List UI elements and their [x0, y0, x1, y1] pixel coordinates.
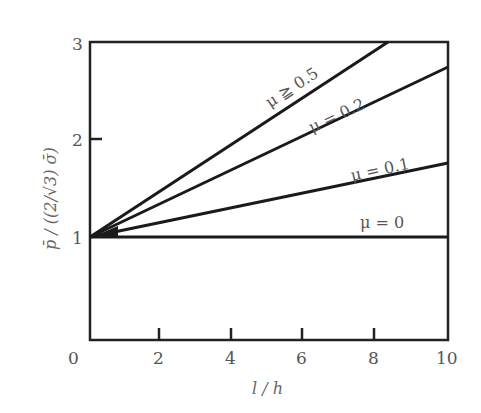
label-mu-0.1: μ = 0.1 [349, 154, 411, 185]
x-tick-4: 4 [225, 348, 236, 368]
x-tick-10: 10 [436, 348, 458, 368]
line-mu-0.5 [90, 42, 388, 237]
label-mu-0: μ = 0 [360, 213, 404, 232]
x-ticks [159, 328, 374, 340]
label-mu-0.2: μ = 0.2 [306, 94, 368, 136]
x-tick-6: 6 [296, 348, 307, 368]
plot-frame [90, 42, 448, 340]
y-tick-3: 3 [72, 34, 83, 54]
x-tick-0: 0 [68, 348, 79, 368]
y-tick-2: 2 [72, 130, 83, 150]
x-tick-2: 2 [153, 348, 164, 368]
y-tick-1: 1 [72, 228, 83, 248]
y-axis-label: p̄ / ((2/√3) σ̄) [41, 147, 60, 250]
x-tick-8: 8 [368, 348, 379, 368]
chart-canvas: 0 2 4 6 8 10 1 2 3 l / h p̄ / ((2/√3) σ̄… [0, 0, 481, 413]
series-lines [90, 42, 448, 237]
x-axis-label: l / h [252, 379, 283, 398]
